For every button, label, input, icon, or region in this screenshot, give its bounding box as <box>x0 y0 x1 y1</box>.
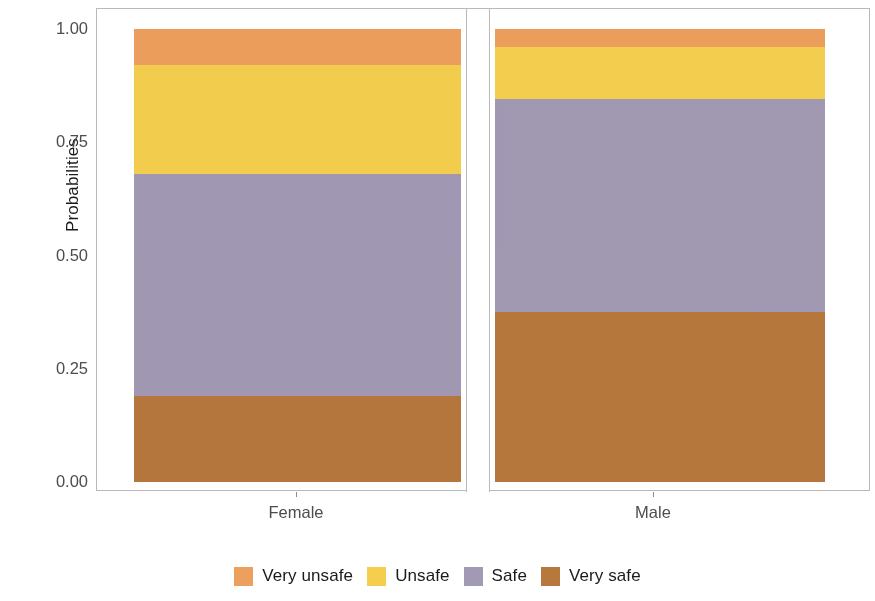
legend-swatch-safe <box>464 567 483 586</box>
bar-segment-female-very-unsafe <box>134 29 461 65</box>
legend-label-very-unsafe: Very unsafe <box>262 566 353 586</box>
stacked-bar-chart: Probabilities 0.00 0.25 0.50 0.75 1.00 <box>0 0 875 601</box>
facet-edge-left <box>466 9 467 492</box>
bar-segment-male-safe <box>495 99 825 312</box>
legend-swatch-very-unsafe <box>234 567 253 586</box>
stacked-bar-male <box>495 29 825 482</box>
legend-swatch-unsafe <box>367 567 386 586</box>
legend-item-very-unsafe[interactable]: Very unsafe <box>234 566 353 586</box>
y-tick-label-3: 0.75 <box>26 132 88 151</box>
bar-segment-male-unsafe <box>495 47 825 99</box>
legend-item-unsafe[interactable]: Unsafe <box>367 566 449 586</box>
legend-label-safe: Safe <box>492 566 527 586</box>
bar-segment-male-very-safe <box>495 312 825 482</box>
legend-swatch-very-safe <box>541 567 560 586</box>
y-tick-label-4: 1.00 <box>26 19 88 38</box>
y-tick-label-2: 0.50 <box>26 245 88 264</box>
x-tick-label-female: Female <box>268 503 323 522</box>
bar-segment-female-very-safe <box>134 396 461 482</box>
facet-male <box>489 9 871 492</box>
facet-female <box>97 9 467 492</box>
legend-item-very-safe[interactable]: Very safe <box>541 566 641 586</box>
stacked-bar-female <box>134 29 461 482</box>
bar-segment-female-unsafe <box>134 65 461 174</box>
legend: Very unsafe Unsafe Safe Very safe <box>0 566 875 586</box>
legend-label-very-safe: Very safe <box>569 566 641 586</box>
x-tick-mark-male <box>653 492 654 497</box>
y-tick-label-1: 0.25 <box>26 358 88 377</box>
legend-label-unsafe: Unsafe <box>395 566 449 586</box>
legend-item-safe[interactable]: Safe <box>464 566 527 586</box>
bar-segment-male-very-unsafe <box>495 29 825 47</box>
x-tick-label-male: Male <box>635 503 671 522</box>
x-tick-mark-female <box>296 492 297 497</box>
plot-panel <box>96 8 870 491</box>
bar-segment-female-safe <box>134 174 461 396</box>
y-axis-tick-labels: 0.00 0.25 0.50 0.75 1.00 <box>26 0 88 601</box>
facet-divider <box>467 9 489 492</box>
y-tick-label-0: 0.00 <box>26 472 88 491</box>
